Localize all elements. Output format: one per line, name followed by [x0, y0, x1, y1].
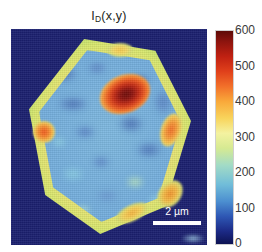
- figure-title: ID(x,y): [11, 7, 207, 25]
- left-edge-hotspot: [33, 121, 55, 143]
- lower-left-hotspot: [59, 153, 81, 171]
- scale-bar-line: [153, 221, 201, 225]
- colorbar-tick-100: 100: [235, 202, 255, 214]
- corner-artifact: [182, 234, 204, 243]
- colorbar-gradient: [215, 30, 234, 245]
- colorbar-tick-600: 600: [235, 24, 255, 36]
- scale-bar-label: 2 µm: [151, 205, 203, 218]
- colorbar-tick-labels: 6005004003002001000: [235, 24, 262, 250]
- colorbar-tick-200: 200: [235, 166, 255, 178]
- heatmap-panel: 2 µm: [11, 29, 207, 245]
- raman-intensity-map-figure: ID(x,y) 2 µm 6005004003002001000: [0, 0, 262, 252]
- figure-title-arguments: (x,y): [101, 9, 126, 23]
- top-rim-hotspot: [107, 43, 133, 57]
- colorbar-tick-300: 300: [235, 131, 255, 143]
- colorbar-tick-0: 0: [235, 237, 242, 249]
- colorbar-tick-500: 500: [235, 60, 255, 72]
- colorbar-tick-400: 400: [235, 95, 255, 107]
- scale-bar: 2 µm: [151, 205, 203, 225]
